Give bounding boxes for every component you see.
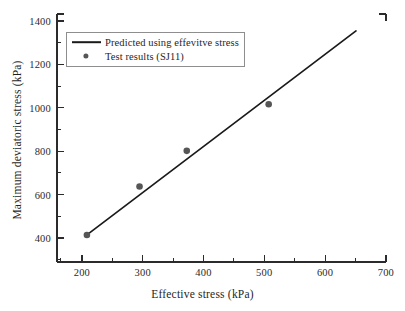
data-point — [136, 183, 143, 190]
x-tick-label: 200 — [74, 267, 90, 278]
data-point — [84, 232, 91, 239]
chart-figure: 1400 1200 1000 800 600 400 200 300 400 5… — [0, 0, 405, 311]
data-point — [265, 101, 272, 108]
x-tick-label: 600 — [317, 267, 333, 278]
data-point-markers — [84, 101, 272, 238]
x-tick-label: 400 — [195, 267, 211, 278]
line-swatch-icon — [71, 36, 101, 48]
data-point — [183, 148, 190, 155]
x-tick-label: 300 — [135, 267, 151, 278]
x-tick-label: 500 — [256, 267, 272, 278]
legend-item-test-results: Test results (SJ11) — [71, 49, 239, 63]
legend-label: Predicted using effevitve stress — [105, 37, 239, 48]
y-axis-title: Maximum deviatoric stress (kPa) — [11, 60, 23, 219]
legend-label: Test results (SJ11) — [105, 51, 184, 62]
y-tick-label: 1400 — [13, 16, 51, 27]
legend-item-predicted: Predicted using effevitve stress — [71, 35, 239, 49]
x-axis-title: Effective stress (kPa) — [0, 288, 405, 300]
y-tick-label: 400 — [13, 233, 51, 244]
x-tick-label: 700 — [378, 267, 394, 278]
circle-marker-icon — [71, 50, 101, 62]
chart-legend: Predicted using effevitve stress Test re… — [66, 32, 245, 67]
